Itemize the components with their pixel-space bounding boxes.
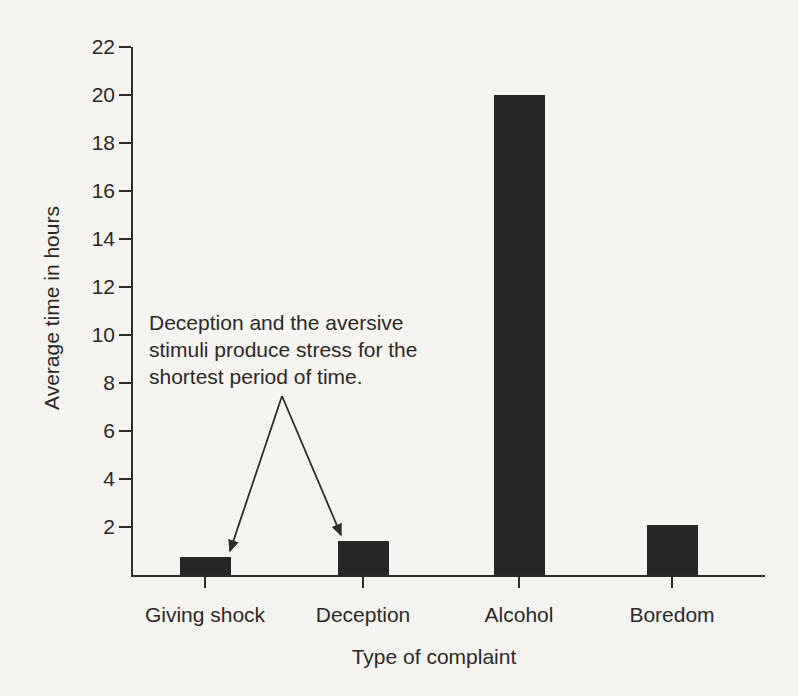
x-tick-boredom [671,577,673,588]
y-tick-label-12: 12 [61,275,115,299]
y-tick-label-16: 16 [61,179,115,203]
x-category-label-deception: Deception [273,603,453,627]
y-tick-label-6: 6 [61,419,115,443]
bar-giving-shock [180,557,231,575]
y-tick-16 [119,190,131,192]
y-tick-18 [119,142,131,144]
y-tick-label-14: 14 [61,227,115,251]
y-tick-22 [119,46,131,48]
annotation-text: Deception and the aversive stimuli produ… [149,309,469,390]
y-tick-label-2: 2 [61,515,115,539]
x-axis-title: Type of complaint [352,645,517,669]
y-tick-label-18: 18 [61,131,115,155]
y-tick-20 [119,94,131,96]
x-tick-giving-shock [204,577,206,588]
y-tick-6 [119,430,131,432]
y-tick-label-8: 8 [61,371,115,395]
bar-boredom [647,525,698,575]
y-tick-label-4: 4 [61,467,115,491]
y-tick-label-22: 22 [61,35,115,59]
bar-alcohol [494,95,545,575]
y-tick-2 [119,526,131,528]
y-tick-label-20: 20 [61,83,115,107]
x-category-label-boredom: Boredom [582,603,762,627]
y-tick-12 [119,286,131,288]
y-tick-14 [119,238,131,240]
y-tick-8 [119,382,131,384]
x-tick-deception [362,577,364,588]
y-tick-10 [119,334,131,336]
x-category-label-giving-shock: Giving shock [115,603,295,627]
bar-deception [338,541,389,575]
figure: Average time in hours 246810121416182022… [0,0,798,696]
y-tick-label-10: 10 [61,323,115,347]
y-tick-4 [119,478,131,480]
x-tick-alcohol [518,577,520,588]
